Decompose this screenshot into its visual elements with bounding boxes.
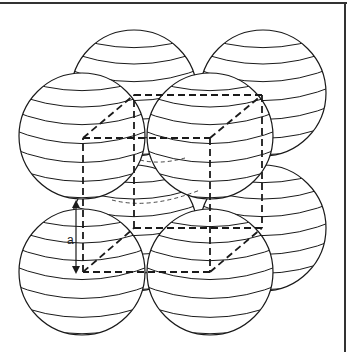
diagram-canvas: a	[0, 0, 347, 352]
atom-spheres	[10, 30, 336, 335]
edge-length-label: a	[67, 233, 74, 247]
unit-cell-diagram: a	[0, 0, 347, 352]
